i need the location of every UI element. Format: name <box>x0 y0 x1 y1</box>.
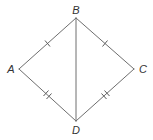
vertex-label-b: B <box>72 4 79 16</box>
vertex-label-d: D <box>72 124 80 136</box>
vertex-label-c: C <box>139 63 147 75</box>
kite-diagram: B A C D <box>0 0 153 140</box>
segment-ad <box>19 69 76 121</box>
vertex-label-a: A <box>6 63 14 75</box>
segment-cd <box>76 69 134 121</box>
